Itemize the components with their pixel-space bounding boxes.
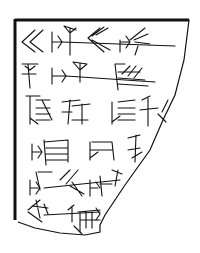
- tablet-outline: [15, 20, 189, 235]
- text-line-2: [22, 62, 155, 90]
- text-line-3: [26, 96, 168, 126]
- text-line-1: [22, 26, 175, 55]
- text-line-4: [32, 135, 142, 165]
- tablet-drawing: [0, 0, 200, 253]
- text-line-5: [30, 170, 122, 196]
